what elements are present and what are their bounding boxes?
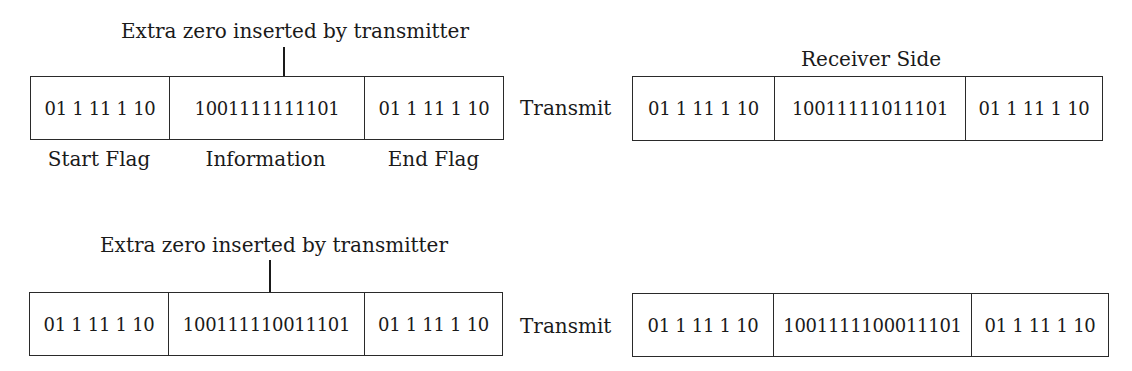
row2-sender-information: 100111110011101 [168, 293, 364, 355]
row1-receiver-information: 10011111011101 [774, 77, 965, 140]
information-label: Information [168, 147, 363, 171]
row2-receiver-end-flag: 01 1 11 1 10 [971, 294, 1108, 356]
row1-sender-information: 1001111111101 [169, 77, 364, 139]
row2-sender-end-flag: 01 1 11 1 10 [364, 293, 502, 355]
row1-annotation: Extra zero inserted by transmitter [121, 19, 469, 43]
end-flag-label: End Flag [363, 147, 504, 171]
row2-receiver-start-flag: 01 1 11 1 10 [633, 294, 773, 356]
row2-receiver-information: 1001111100011101 [773, 294, 971, 356]
start-flag-label: Start Flag [30, 147, 168, 171]
row1-sender-frame: 01 1 11 1 10 1001111111101 01 1 11 1 10 [30, 76, 504, 140]
row1-sender-start-flag: 01 1 11 1 10 [31, 77, 169, 139]
receiver-side-heading: Receiver Side [801, 47, 941, 71]
row2-annotation: Extra zero inserted by transmitter [100, 233, 448, 257]
row1-receiver-start-flag: 01 1 11 1 10 [633, 77, 774, 140]
row2-transmit-label: Transmit [520, 314, 611, 338]
row1-receiver-end-flag: 01 1 11 1 10 [965, 77, 1102, 140]
row1-transmit-label: Transmit [520, 96, 611, 120]
row1-receiver-frame: 01 1 11 1 10 10011111011101 01 1 11 1 10 [632, 76, 1103, 141]
row1-sender-end-flag: 01 1 11 1 10 [364, 77, 503, 139]
row2-sender-frame: 01 1 11 1 10 100111110011101 01 1 11 1 1… [29, 292, 503, 356]
row2-receiver-frame: 01 1 11 1 10 1001111100011101 01 1 11 1 … [632, 293, 1109, 357]
row2-sender-start-flag: 01 1 11 1 10 [30, 293, 168, 355]
